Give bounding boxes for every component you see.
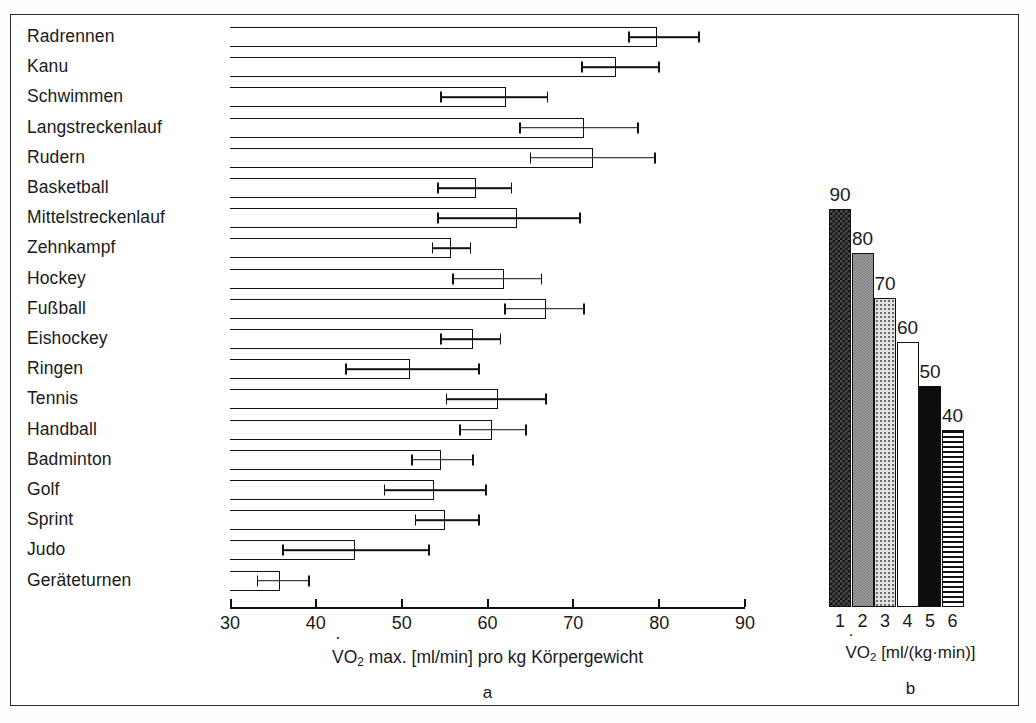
category-label: Basketball [27, 179, 109, 197]
bars-area-b: 901802703604505406 [829, 187, 969, 607]
category-label: Zehnkampf [27, 239, 115, 257]
bar-category-label: 1 [835, 611, 845, 632]
bar [897, 342, 919, 607]
bar [874, 298, 896, 607]
x-axis-tick [401, 599, 403, 607]
bar-category-label: 6 [947, 611, 957, 632]
error-bar-cap-high [511, 183, 513, 194]
error-bar-cap-high [541, 273, 543, 284]
figure-frame: RadrennenKanuSchwimmenLangstreckenlaufRu… [10, 14, 1019, 706]
bar-row [230, 510, 745, 530]
bar-row [230, 148, 745, 168]
error-bar-cap-high [308, 575, 310, 586]
bar-value-label: 90 [829, 184, 850, 206]
bar-category-label: 4 [902, 611, 912, 632]
bar [829, 209, 851, 607]
error-bar-cap-high [470, 243, 472, 254]
error-bar-cap-low [282, 545, 284, 556]
bar-row [230, 57, 745, 77]
x-axis-tick [572, 599, 574, 607]
bar [230, 57, 616, 77]
bar-row [230, 389, 745, 409]
error-bar-cap-high [654, 152, 656, 163]
error-bar-cap-low [257, 575, 259, 586]
category-label: Hockey [27, 270, 86, 288]
error-bar-cap-high [478, 515, 480, 526]
error-bar-cap-high [485, 485, 487, 496]
panel-a: RadrennenKanuSchwimmenLangstreckenlaufRu… [11, 15, 801, 707]
error-bar-line [441, 338, 500, 340]
bar [230, 27, 657, 47]
bar-row [230, 27, 745, 47]
category-label: Sprint [27, 511, 73, 529]
category-label: Ringen [27, 360, 83, 378]
error-bar-cap-low [504, 303, 506, 314]
category-label: Handball [27, 421, 97, 439]
error-bar-line [629, 36, 699, 38]
bar-row [230, 87, 745, 107]
error-bar-cap-high [545, 394, 547, 405]
error-bar-cap-low [384, 485, 386, 496]
bar-category-label: 2 [857, 611, 867, 632]
category-label: Tennis [27, 390, 78, 408]
x-axis-tick-label: 30 [220, 613, 240, 634]
category-label: Langstreckenlauf [27, 119, 162, 137]
v-dot-glyph-b: V [845, 643, 856, 662]
x-axis-tick-label: 70 [563, 613, 583, 634]
bar-value-label: 70 [874, 273, 895, 295]
bar-column: 703 [874, 187, 896, 607]
x-axis-tick-label: 80 [649, 613, 669, 634]
bar [230, 450, 441, 470]
error-bar-line [460, 429, 526, 431]
bar-row [230, 450, 745, 470]
error-bar-cap-low [628, 32, 630, 43]
x-axis-origin-cap [230, 599, 232, 607]
bar-row [230, 540, 745, 560]
category-label: Kanu [27, 58, 68, 76]
figure-root: RadrennenKanuSchwimmenLangstreckenlaufRu… [0, 0, 1036, 723]
error-bar-line [446, 399, 546, 401]
error-bar-line [453, 278, 541, 280]
panel-b: 901802703604505406 VO2 [ml/(kg·min)] b [801, 15, 1020, 707]
category-label: Schwimmen [27, 88, 123, 106]
panel-tag-b: b [801, 679, 1020, 699]
bar-column: 901 [829, 187, 851, 607]
bar-column: 604 [897, 187, 919, 607]
error-bar-cap-high [579, 213, 581, 224]
category-label: Fußball [27, 300, 86, 318]
x-axis-tick [487, 599, 489, 607]
error-bar-cap-low [452, 273, 454, 284]
category-label: Geräteturnen [27, 572, 131, 590]
error-bar-cap-low [432, 243, 434, 254]
error-bar-cap-low [519, 122, 521, 133]
error-bar-cap-low [440, 92, 442, 103]
error-bar-line [385, 489, 486, 491]
error-bar-cap-high [525, 424, 527, 435]
error-bar-cap-low [415, 515, 417, 526]
bar-row [230, 359, 745, 379]
error-bar-line [505, 308, 584, 310]
bar-column: 406 [942, 187, 964, 607]
error-bar-cap-low [446, 394, 448, 405]
error-bar-cap-high [472, 454, 474, 465]
category-label: Mittelstreckenlauf [27, 209, 165, 227]
error-bar-cap-low [437, 183, 439, 194]
x-axis-tick [315, 599, 317, 607]
bar [230, 329, 473, 349]
error-bar-line [257, 580, 309, 582]
error-bar-line [441, 97, 547, 99]
bar-value-label: 60 [897, 317, 918, 339]
error-bar-cap-low [530, 152, 532, 163]
bar [230, 510, 445, 530]
error-bar-cap-low [345, 364, 347, 375]
x-axis-label-a: VO2 max. [ml/min] pro kg Körpergewicht [230, 647, 745, 669]
error-bar-cap-low [440, 334, 442, 345]
category-label: Golf [27, 481, 60, 499]
error-bar-line [433, 248, 471, 250]
error-bar-cap-low [581, 62, 583, 73]
error-bar-cap-high [500, 334, 502, 345]
error-bar-line [346, 368, 479, 370]
bar [852, 253, 874, 607]
category-label: Radrennen [27, 28, 115, 46]
error-bar-line [520, 127, 638, 129]
